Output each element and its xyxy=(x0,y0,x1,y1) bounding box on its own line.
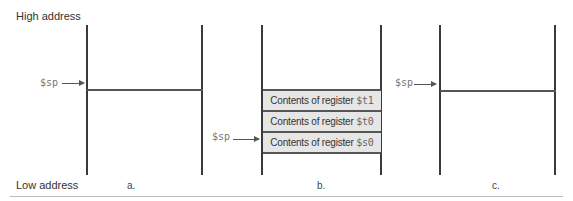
panel-caption: b. xyxy=(317,180,325,191)
sp-label: $sp xyxy=(395,77,413,88)
stack-entry-t1: Contents of register $t1 xyxy=(263,89,381,110)
stack-top-line xyxy=(87,89,203,91)
stack-entry-t0: Contents of register $t0 xyxy=(263,110,381,131)
stack-right-wall xyxy=(201,25,203,175)
entry-text: Contents of register xyxy=(270,137,356,148)
register-name: $t0 xyxy=(356,116,373,127)
stack-entry-s0: Contents of register $s0 xyxy=(263,131,381,154)
entry-text: Contents of register xyxy=(270,95,356,106)
arrow-right-icon xyxy=(414,84,436,85)
stack-left-wall xyxy=(439,25,441,175)
stack-right-wall xyxy=(554,25,556,175)
stack-left-wall xyxy=(86,25,88,175)
bottom-divider xyxy=(10,196,563,197)
low-address-label: Low address xyxy=(16,179,78,191)
arrow-right-icon xyxy=(233,139,259,140)
panel-caption: c. xyxy=(492,180,500,191)
register-name: $s0 xyxy=(356,137,373,148)
panel-caption: a. xyxy=(127,180,135,191)
arrow-right-icon xyxy=(62,83,84,84)
high-address-label: High address xyxy=(16,10,81,22)
sp-label: $sp xyxy=(212,131,230,142)
entry-text: Contents of register xyxy=(270,116,356,127)
register-name: $t1 xyxy=(356,95,373,106)
stack-top-line xyxy=(440,90,556,92)
sp-label: $sp xyxy=(40,77,58,88)
